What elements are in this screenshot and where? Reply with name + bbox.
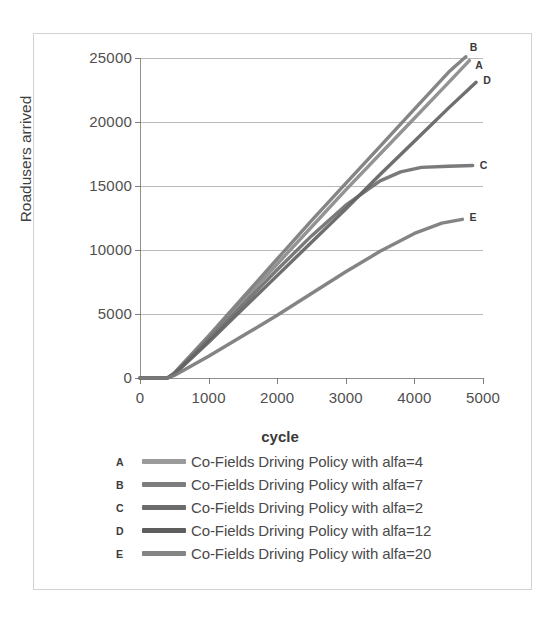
series-end-label-e: E	[469, 211, 476, 223]
legend-key: C	[112, 502, 142, 514]
legend-key: B	[112, 479, 142, 491]
legend-row[interactable]: ACo-Fields Driving Policy with alfa=4	[112, 450, 472, 473]
series-line-e	[140, 219, 462, 378]
legend-label: Co-Fields Driving Policy with alfa=4	[191, 453, 423, 470]
series-end-label-b: B	[470, 41, 478, 53]
chart-page: Roadusers arrived 0500010000150002000025…	[0, 0, 560, 619]
series-end-label-c: C	[480, 159, 488, 171]
series-end-label-d: D	[483, 74, 491, 86]
legend-swatch-icon	[142, 459, 186, 464]
legend-swatch-icon	[142, 551, 186, 556]
series-line-b	[140, 57, 466, 378]
legend-row[interactable]: BCo-Fields Driving Policy with alfa=7	[112, 473, 472, 496]
legend-swatch-icon	[142, 528, 186, 533]
x-axis-title: cycle	[0, 428, 560, 445]
legend-row[interactable]: DCo-Fields Driving Policy with alfa=12	[112, 519, 472, 542]
legend-label: Co-Fields Driving Policy with alfa=7	[191, 476, 423, 493]
legend-row[interactable]: CCo-Fields Driving Policy with alfa=2	[112, 496, 472, 519]
legend-label: Co-Fields Driving Policy with alfa=2	[191, 499, 423, 516]
legend-key: A	[112, 456, 142, 468]
chart-legend: ACo-Fields Driving Policy with alfa=4BCo…	[112, 450, 472, 565]
legend-swatch-icon	[142, 482, 186, 487]
legend-key: E	[112, 548, 142, 560]
series-end-label-a: A	[475, 59, 483, 71]
series-line-c	[140, 166, 473, 379]
chart-area: Roadusers arrived 0500010000150002000025…	[0, 0, 560, 440]
legend-swatch-icon	[142, 505, 186, 510]
series-line-a	[140, 61, 469, 378]
legend-key: D	[112, 525, 142, 537]
legend-row[interactable]: ECo-Fields Driving Policy with alfa=20	[112, 542, 472, 565]
legend-label: Co-Fields Driving Policy with alfa=12	[191, 522, 431, 539]
legend-label: Co-Fields Driving Policy with alfa=20	[191, 545, 431, 562]
